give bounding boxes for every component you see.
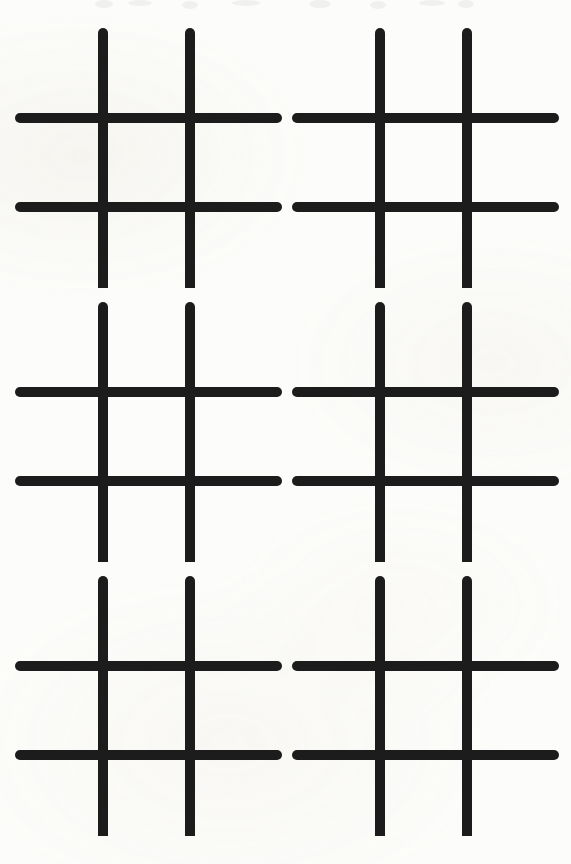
tic-tac-toe-grid[interactable]	[0, 274, 286, 562]
tic-tac-toe-grid[interactable]	[0, 548, 286, 836]
tic-tac-toe-grid[interactable]	[277, 548, 563, 836]
grid-sheet	[0, 0, 571, 864]
tic-tac-toe-grid[interactable]	[0, 0, 286, 288]
tic-tac-toe-grid[interactable]	[277, 274, 563, 562]
page-canvas	[0, 0, 571, 864]
tic-tac-toe-grid[interactable]	[277, 0, 563, 288]
